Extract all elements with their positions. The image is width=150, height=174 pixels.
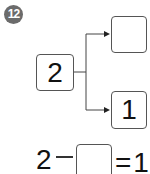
part-number-box: 1 xyxy=(111,91,147,129)
source-number-box: 2 xyxy=(36,54,74,91)
arrow-right-icon xyxy=(104,107,110,113)
equation-answer-box[interactable] xyxy=(76,144,112,174)
equation-equals-result: =1 xyxy=(115,149,149,174)
equation-left-operand: 2 xyxy=(36,146,52,174)
answer-box-top[interactable] xyxy=(111,16,147,53)
minus-sign xyxy=(56,156,73,158)
arrow-right-icon xyxy=(104,31,110,37)
